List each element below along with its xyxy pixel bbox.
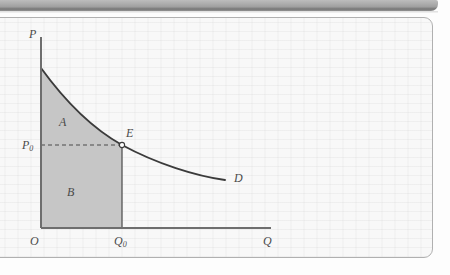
quantity-level-label: Q0: [114, 235, 127, 249]
region-a-label: A: [59, 116, 66, 128]
equilibrium-point-marker: [119, 142, 124, 147]
region-b-label: B: [67, 186, 74, 198]
quantity-level-subscript: 0: [123, 240, 127, 249]
region-b-shading: [41, 145, 122, 228]
demand-curve-label: D: [234, 172, 243, 184]
page-root: P P0 A B E D O Q0 Q: [0, 0, 450, 275]
price-level-subscript: 0: [29, 144, 33, 153]
price-level-label: P0: [22, 139, 33, 153]
equilibrium-point-label: E: [126, 127, 133, 139]
region-a-shading: [41, 68, 122, 145]
origin-label: O: [30, 235, 39, 247]
y-axis-label: P: [29, 28, 36, 40]
x-axis-label: Q: [263, 235, 272, 247]
quantity-level-text: Q: [114, 234, 123, 248]
demand-curve-plot: [0, 0, 450, 275]
